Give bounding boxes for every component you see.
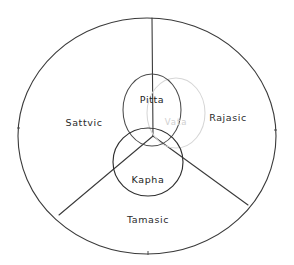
diagram-canvas: Sattvic Rajasic Tamasic Pitta Vata Kapha: [0, 0, 294, 265]
sector-label-rajasic: Rajasic: [209, 112, 247, 123]
pitta-circle: [123, 74, 181, 146]
vata-circle: [147, 78, 205, 148]
sector-label-sattvic: Sattvic: [66, 117, 103, 128]
dosha-label-vata: Vata: [165, 117, 188, 127]
dosha-label-pitta: Pitta: [140, 94, 164, 105]
divider-line-top: [152, 18, 153, 136]
dosha-label-kapha: Kapha: [132, 174, 165, 185]
sector-label-tamasic: Tamasic: [126, 214, 169, 225]
kapha-circle: [113, 128, 183, 196]
gunas-doshas-diagram: Sattvic Rajasic Tamasic Pitta Vata Kapha: [0, 0, 294, 265]
